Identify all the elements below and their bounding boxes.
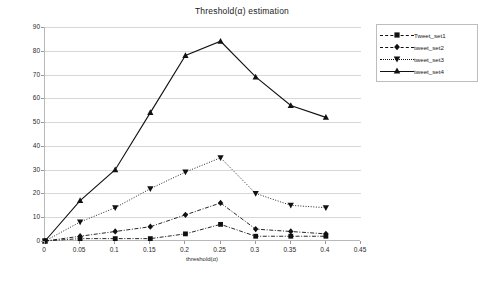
x-tick-label: 0.1 (99, 246, 129, 253)
data-point (288, 228, 294, 234)
x-tick-mark (149, 241, 150, 244)
data-point (148, 224, 154, 230)
x-tick-label: 0.35 (275, 246, 305, 253)
y-tick-label: 30 (14, 166, 40, 173)
legend: Tweet_set1tweet_set2tweet_set3tweet_set4 (376, 24, 478, 82)
series-Tweet_set1 (43, 222, 329, 243)
y-tick-mark (41, 51, 44, 52)
x-tick-mark (290, 241, 291, 244)
data-point (218, 200, 224, 206)
legend-marker-triangle-up (392, 66, 402, 76)
data-point (147, 186, 153, 192)
y-tick-label: 80 (14, 47, 40, 54)
y-tick-label: 10 (14, 213, 40, 220)
x-tick-mark (184, 241, 185, 244)
y-tick-mark (41, 75, 44, 76)
plot-area (44, 27, 360, 241)
series-layer (45, 27, 361, 241)
x-tick-mark (44, 241, 45, 244)
x-tick-label: 0 (29, 246, 59, 253)
legend-swatch (380, 53, 414, 65)
legend-label: Tweet_set1 (414, 32, 446, 39)
data-point (323, 205, 329, 211)
data-point (77, 219, 83, 225)
y-tick-label: 60 (14, 94, 40, 101)
y-tick-mark (41, 122, 44, 123)
x-tick-mark (255, 241, 256, 244)
y-tick-label: 50 (14, 118, 40, 125)
y-tick-label: 20 (14, 189, 40, 196)
legend-marker-diamond (392, 42, 402, 52)
x-tick-mark (79, 241, 80, 244)
legend-swatch (380, 41, 414, 53)
y-tick-mark (41, 193, 44, 194)
y-tick-label: 40 (14, 142, 40, 149)
y-tick-mark (41, 98, 44, 99)
y-tick-label: 0 (14, 237, 40, 244)
legend-label: tweet_set3 (414, 56, 444, 63)
legend-marker-triangle-down (392, 54, 402, 64)
legend-swatch (380, 29, 414, 41)
x-tick-label: 0.45 (345, 246, 375, 253)
data-point (253, 191, 259, 197)
x-tick-mark (325, 241, 326, 244)
x-tick-label: 0.15 (134, 246, 164, 253)
data-point (182, 170, 188, 176)
x-tick-mark (360, 241, 361, 244)
y-tick-label: 90 (14, 23, 40, 30)
data-point (218, 222, 223, 227)
legend-label: tweet_set2 (414, 44, 444, 51)
x-tick-label: 0.3 (240, 246, 270, 253)
data-point (183, 231, 188, 236)
y-tick-mark (41, 170, 44, 171)
x-tick-label: 0.4 (310, 246, 340, 253)
data-point (253, 234, 258, 239)
data-point (112, 205, 118, 211)
chart-title: Threshold(α) estimation (0, 6, 484, 16)
legend-label: tweet_set4 (414, 68, 444, 75)
data-point (253, 226, 259, 232)
x-axis-title: threshold(α) (44, 256, 360, 262)
legend-swatch (380, 65, 414, 77)
chart-figure: Threshold(α) estimation No of homogeneou… (0, 0, 484, 282)
x-tick-mark (114, 241, 115, 244)
legend-item-Tweet_set1[interactable]: Tweet_set1 (380, 29, 474, 41)
series-line (45, 41, 326, 241)
data-point (112, 166, 118, 172)
y-tick-mark (41, 27, 44, 28)
y-tick-label: 70 (14, 71, 40, 78)
x-tick-label: 0.2 (169, 246, 199, 253)
data-point (112, 228, 118, 234)
legend-item-tweet_set3[interactable]: tweet_set3 (380, 53, 474, 65)
series-tweet_set2 (42, 200, 328, 244)
x-tick-mark (220, 241, 221, 244)
y-tick-mark (41, 217, 44, 218)
y-tick-mark (41, 146, 44, 147)
data-point (147, 109, 153, 115)
legend-item-tweet_set4[interactable]: tweet_set4 (380, 65, 474, 77)
legend-marker-square (392, 30, 402, 40)
legend-item-tweet_set2[interactable]: tweet_set2 (380, 41, 474, 53)
data-point (183, 212, 189, 218)
data-point (217, 38, 223, 44)
x-tick-label: 0.05 (64, 246, 94, 253)
x-tick-label: 0.25 (205, 246, 235, 253)
